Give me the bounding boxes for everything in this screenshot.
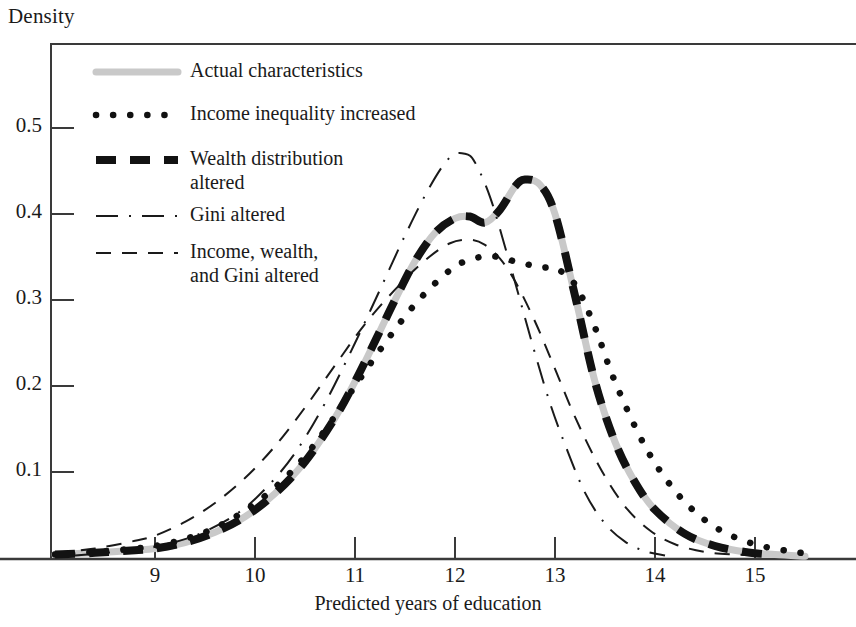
density-chart-figure: Density 0.10.20.30.40.5 9101112131415 Ac… (0, 0, 856, 627)
legend-item-label: Gini altered (190, 202, 285, 226)
legend-swatch-canvas (0, 0, 856, 627)
legend-item-label: Income inequality increased (190, 101, 415, 125)
legend-item-label: Actual characteristics (190, 58, 363, 82)
legend-item-label: Income, wealth, and Gini altered (190, 239, 319, 287)
x-axis-title: Predicted years of education (0, 592, 856, 615)
legend-item-label: Wealth distribution altered (190, 146, 343, 194)
